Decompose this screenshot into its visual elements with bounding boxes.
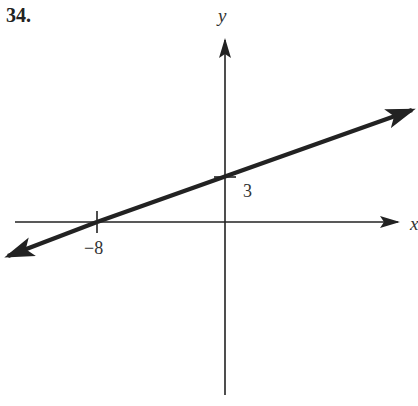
- graphed-line: [97, 110, 412, 222]
- x-axis-label: x: [409, 213, 418, 234]
- x-intercept-label: −8: [84, 238, 103, 258]
- y-intercept-label: 3: [243, 181, 252, 201]
- y-axis-label: y: [216, 5, 227, 26]
- coordinate-plane: y x 3 −8: [0, 0, 418, 406]
